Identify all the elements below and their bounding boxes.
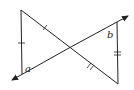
angle-label-a: a [25,63,31,74]
tick-mark-double-diagonal-1 [87,63,91,68]
ascending-line [69,16,128,48]
left-vertical-side [21,10,22,74]
tick-mark-double-diagonal-2 [90,65,94,70]
geometry-diagram: a b [0,0,134,90]
descending-diagonal [21,10,118,84]
right-vertical-side [117,22,118,84]
ascending-line-lower [12,48,69,80]
angle-label-b: b [107,29,113,40]
